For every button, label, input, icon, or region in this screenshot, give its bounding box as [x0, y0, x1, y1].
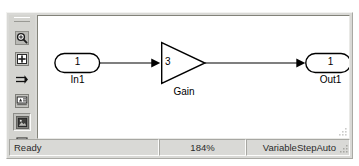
toolbar-button-fit-to-view[interactable] [13, 50, 31, 68]
block-out1-port-number: 1 [308, 56, 350, 67]
image-block-icon [16, 116, 29, 129]
status-solver-mode[interactable]: VariableStepAuto [246, 139, 350, 156]
status-zoom-level[interactable]: 184% [159, 139, 246, 156]
toolbar-button-zoom[interactable] [13, 29, 31, 47]
simulink-model-window: 1 In1 3 Gain 1 Out1 Ready 184% VariableS… [6, 12, 353, 159]
signal-in1-to-gain[interactable] [100, 59, 161, 68]
signal-gain-to-out1[interactable] [205, 59, 305, 68]
zoom-magnifier-icon [15, 31, 29, 45]
toolbar-button-signal-flow[interactable] [13, 71, 31, 89]
simulink-left-toolbar [9, 15, 35, 139]
block-out1-label: Out1 [308, 74, 350, 85]
block-gain-label: Gain [156, 86, 212, 97]
label-block-icon [15, 94, 29, 108]
toolbar-drag-grip[interactable] [14, 17, 30, 22]
toolbar-button-block-label[interactable] [13, 92, 31, 110]
fit-to-view-icon [15, 52, 29, 66]
model-canvas[interactable]: 1 In1 3 Gain 1 Out1 [37, 15, 350, 139]
block-gain-value: 3 [165, 56, 191, 67]
canvas-resize-grip-icon[interactable] [337, 126, 348, 137]
toolbar-button-image-block[interactable] [13, 113, 31, 131]
status-bar: Ready 184% VariableStepAuto [9, 139, 350, 156]
block-in1-label: In1 [55, 74, 100, 85]
status-ready-text: Ready [9, 139, 159, 156]
signal-flow-arrow-icon [15, 73, 29, 87]
block-in1-port-number: 1 [55, 56, 100, 67]
window-resize-grip-icon[interactable] [339, 144, 349, 154]
